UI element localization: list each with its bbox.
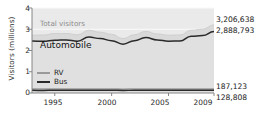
visitors-chart: Visitors (millions) 4 3 2 1 0 [0,0,262,121]
legend: RV Bus [37,68,67,86]
legend-label: RV [54,69,64,76]
automobile-label: Automobile [40,41,91,50]
automobile-value: 2,888,793 [216,27,254,35]
x-tick-label: 2009 [186,99,220,106]
x-tick-label: 2005 [143,99,177,106]
legend-item-rv: RV [37,68,67,77]
x-tick-label: 2000 [90,99,124,106]
x-tick-label: 1995 [36,99,70,106]
legend-swatch-icon [37,81,50,83]
bus-value: 128,808 [216,94,247,102]
total-visitors-label: Total visitors [40,20,85,27]
total-visitors-value: 3,206,638 [216,16,254,24]
rv-value: 187,123 [216,83,247,91]
legend-label: Bus [54,78,67,85]
legend-swatch-icon [37,72,50,74]
legend-item-bus: Bus [37,77,67,86]
